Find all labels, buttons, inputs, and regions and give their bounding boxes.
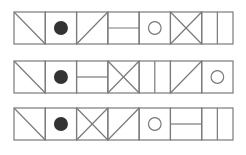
x-cross-icon	[170, 12, 201, 44]
open-circle-icon	[148, 22, 161, 35]
cell-horizontal	[108, 12, 139, 44]
cell-open-circle	[139, 108, 170, 140]
puzzle-diagram	[0, 0, 246, 155]
cell-x-cross	[108, 61, 139, 93]
filled-circle-icon	[54, 70, 68, 84]
open-circle-icon	[148, 118, 161, 131]
cell-x-cross	[77, 108, 108, 140]
filled-circle-icon	[54, 21, 68, 35]
backslash-icon	[14, 12, 45, 44]
cell-horizontal	[170, 108, 201, 140]
cell-vertical	[202, 108, 233, 140]
cell-border	[139, 12, 170, 44]
cell-filled-circle	[45, 12, 76, 44]
backslash-icon	[14, 61, 45, 93]
cell-border	[202, 61, 233, 93]
backslash-icon	[14, 108, 45, 140]
cell-open-circle	[139, 12, 170, 44]
cell-vertical	[202, 12, 233, 44]
cell-vertical	[139, 61, 170, 93]
cell-backslash	[14, 108, 45, 140]
row-2	[14, 61, 233, 93]
cell-backslash	[14, 12, 45, 44]
x-cross-icon	[108, 61, 139, 93]
filled-circle-icon	[54, 117, 68, 131]
cell-slash	[108, 108, 139, 140]
cell-filled-circle	[45, 108, 76, 140]
cell-border	[139, 108, 170, 140]
cell-x-cross	[170, 12, 201, 44]
row-3	[14, 108, 233, 140]
cell-filled-circle	[45, 61, 76, 93]
cell-horizontal	[77, 61, 108, 93]
slash-icon	[108, 108, 139, 140]
cell-slash	[77, 12, 108, 44]
slash-icon	[77, 12, 108, 44]
cell-slash	[170, 61, 201, 93]
cell-backslash	[14, 61, 45, 93]
cell-open-circle	[202, 61, 233, 93]
row-1	[14, 12, 233, 44]
slash-icon	[170, 61, 201, 93]
x-cross-icon	[77, 108, 108, 140]
open-circle-icon	[211, 71, 224, 84]
